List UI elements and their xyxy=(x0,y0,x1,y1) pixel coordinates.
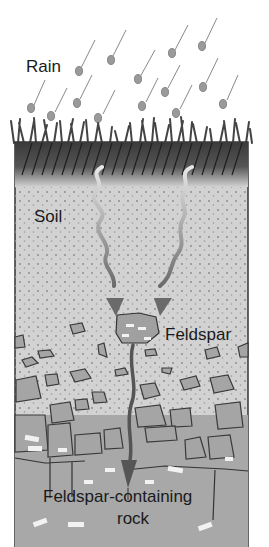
grass xyxy=(11,117,252,143)
feldspar-grain xyxy=(116,313,159,343)
weathering-diagram xyxy=(0,0,269,547)
rock-label-line2: rock xyxy=(117,510,149,527)
feldspar-label: Feldspar xyxy=(165,326,231,343)
rain-label: Rain xyxy=(26,58,61,75)
soil-label: Soil xyxy=(34,208,62,225)
rock-label-line1: Feldspar-containing xyxy=(43,488,192,505)
